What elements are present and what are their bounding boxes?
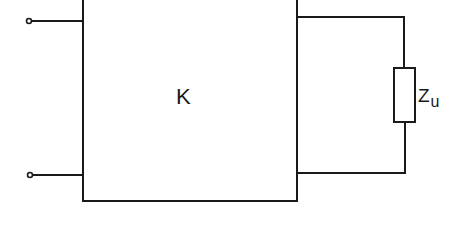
output-wire-top (297, 17, 404, 68)
load-label-main: Z (418, 85, 430, 106)
output-wire-bottom (297, 122, 405, 173)
input-terminal-top (27, 19, 32, 24)
circuit-diagram (0, 0, 455, 230)
block-label: K (176, 84, 191, 110)
input-terminal-bottom (28, 173, 33, 178)
load-impedance-symbol (394, 68, 415, 122)
load-label-subscript: u (431, 93, 440, 110)
load-label: Zu (418, 85, 440, 111)
